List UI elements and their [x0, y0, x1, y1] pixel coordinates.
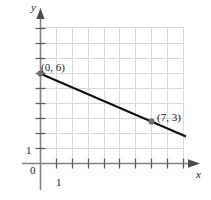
point-label-7-3: (7, 3)	[157, 112, 181, 123]
plotted-line	[40, 74, 186, 137]
y-axis-tick-label-1: 1	[26, 145, 32, 156]
x-axis-arrowhead	[188, 159, 200, 168]
point-label-0-6: (0, 6)	[41, 62, 65, 73]
origin-tick-label: 0	[30, 165, 36, 176]
data-point-7-3	[148, 118, 154, 124]
x-axis-label: x	[196, 169, 201, 180]
y-axis-label: y	[31, 2, 36, 13]
y-axis-arrowhead	[36, 8, 44, 19]
grid-lines	[41, 28, 184, 164]
coordinate-plane-figure: y x 0 1 1 (0, 6) (7, 3)	[0, 0, 211, 200]
x-axis-tick-label-1: 1	[56, 177, 62, 188]
